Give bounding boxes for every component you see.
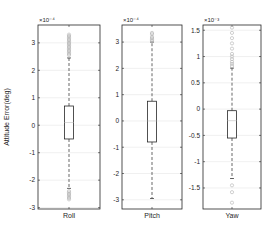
x-category-label: Pitch xyxy=(144,212,160,219)
y-tick-label: -3 xyxy=(29,204,35,211)
y-tick-label: -2 xyxy=(113,170,119,177)
y-tick-label: -1 xyxy=(194,158,200,165)
chart-canvas: Attitude Error(deg) -3-2-10123×10⁻⁴Roll-… xyxy=(0,0,271,232)
y-tick-label: 1 xyxy=(115,91,119,98)
exponent-label: ×10⁻³ xyxy=(204,17,219,23)
y-tick-label: -3 xyxy=(113,196,119,203)
y-tick-label: 1 xyxy=(31,94,35,101)
outlier-marker xyxy=(230,191,233,194)
y-tick-label: 0 xyxy=(31,122,35,129)
box-plot-figure: Attitude Error(deg) -3-2-10123×10⁻⁴Roll-… xyxy=(0,0,271,232)
y-tick-label: 2 xyxy=(31,67,35,74)
panel-pitch: -3-2-10123×10⁻⁴Pitch xyxy=(113,17,182,219)
outlier-marker xyxy=(230,37,233,40)
outlier-marker xyxy=(230,184,233,187)
y-tick-label: 1 xyxy=(196,53,200,60)
panel-roll: -3-2-10123×10⁻⁴Roll xyxy=(29,17,100,219)
y-axis-label: Attitude Error(deg) xyxy=(3,88,11,146)
y-tick-label: -2 xyxy=(29,176,35,183)
x-category-label: Yaw xyxy=(225,212,239,219)
box-iqr xyxy=(228,111,237,138)
x-category-label: Roll xyxy=(63,212,76,219)
y-tick-label: 0.5 xyxy=(191,79,200,86)
panels-group: -3-2-10123×10⁻⁴Roll-3-2-10123×10⁻⁴Pitch-… xyxy=(29,17,261,219)
exponent-label: ×10⁻⁴ xyxy=(123,17,139,23)
y-tick-label: -1 xyxy=(113,144,119,151)
box-iqr xyxy=(148,101,157,142)
y-tick-label: -1 xyxy=(29,149,35,156)
outlier-marker xyxy=(230,201,233,204)
panel-yaw: -1.5-1-0.500.511.5×10⁻³Yaw xyxy=(189,17,261,219)
outlier-marker xyxy=(230,31,233,34)
y-tick-label: 3 xyxy=(115,38,119,45)
y-tick-label: -1.5 xyxy=(189,184,201,191)
outlier-marker xyxy=(230,42,233,45)
outlier-marker xyxy=(230,47,233,50)
y-tick-label: -0.5 xyxy=(189,132,201,139)
y-tick-label: 0 xyxy=(115,117,119,124)
exponent-label: ×10⁻⁴ xyxy=(39,17,55,23)
y-tick-label: 1.5 xyxy=(191,27,200,34)
y-tick-label: 0 xyxy=(196,105,200,112)
y-tick-label: 2 xyxy=(115,65,119,72)
y-tick-label: 3 xyxy=(31,39,35,46)
